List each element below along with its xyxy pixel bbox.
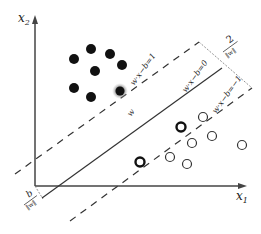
lower-margin-line [70,88,252,221]
filled-point [105,49,115,59]
offset-numerator: b [24,188,35,200]
open-point [188,139,197,148]
open-point [238,141,247,150]
lower-margin-label: w·x−b=−1 [210,74,243,115]
filled-point [69,54,79,64]
filled-point [86,44,96,54]
offset-denominator: ‖w‖ [24,198,38,211]
filled-point [90,66,100,76]
offset-annotation: b ‖w‖ [18,186,43,211]
y-axis-label: x2 [18,11,30,27]
filled-support-vector [116,87,125,96]
open-point [208,132,217,141]
filled-point [69,83,79,93]
open-support-vector [136,158,145,167]
hyperplane-line [42,68,222,198]
open-point [199,113,208,122]
open-support-vector [177,123,186,132]
filled-point [86,92,96,102]
margin-width-numerator: 2 [224,33,236,46]
hyperplane-label: w·x−b=0 [180,59,209,95]
hyperplanes [15,42,252,221]
x-axis-label: x1 [236,189,248,205]
filled-class-points [69,44,128,102]
open-point [166,153,175,162]
normal-vector-label: w [125,107,136,118]
margin-width-denominator: ‖w‖ [224,46,238,59]
open-class-points [136,113,247,169]
y-axis-arrow-icon [32,15,38,24]
svm-diagram: x2 x1 2 ‖w‖ b ‖w‖ w·x−b=1 w·x−b=0 w·x−b=… [0,0,261,234]
open-point [183,160,192,169]
filled-point [117,60,127,70]
